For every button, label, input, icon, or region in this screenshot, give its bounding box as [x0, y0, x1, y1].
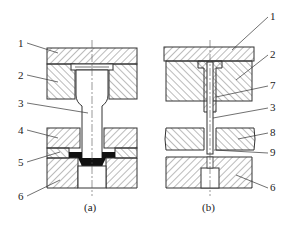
part-4-stripper-left-a	[47, 128, 80, 148]
label-3-b: 3	[270, 101, 276, 113]
label-6-a: 6	[18, 190, 24, 202]
blank-strip-left-a	[69, 152, 82, 158]
label-1-a: 1	[18, 37, 24, 49]
caption-a: (a)	[84, 201, 97, 214]
caption-b: (b)	[202, 201, 215, 214]
part-5-guide-left-a	[47, 148, 69, 158]
label-6-b: 6	[270, 181, 276, 193]
label-3-a: 3	[18, 97, 24, 109]
label-2-b: 2	[270, 48, 276, 60]
part-1-top-plate-b	[164, 47, 254, 61]
label-1-b: 1	[270, 10, 276, 22]
label-8-b: 8	[270, 126, 276, 138]
subfigure-b: 1 2 7 3 8 9 6 (b)	[164, 10, 276, 214]
blank-strip-right-a	[102, 152, 115, 158]
label-2-a: 2	[18, 69, 24, 81]
label-9-b: 9	[270, 146, 276, 158]
part-4-stripper-right-a	[104, 128, 137, 148]
label-5-a: 5	[18, 156, 24, 168]
punch-die-diagram: 1 2 3 4 5 6 (a) 1 2 7 3	[0, 0, 293, 226]
label-7-b: 7	[270, 79, 276, 91]
label-4-a: 4	[18, 124, 24, 136]
subfigure-a: 1 2 3 4 5 6 (a)	[18, 37, 137, 214]
part-5-guide-right-a	[115, 148, 137, 158]
